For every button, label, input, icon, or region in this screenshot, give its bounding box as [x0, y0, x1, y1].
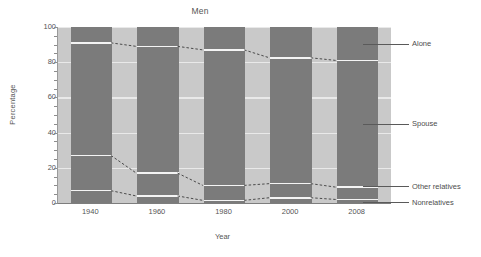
- segment-separator: [204, 185, 245, 187]
- segment-separator: [71, 190, 112, 192]
- legend-label-other-relatives[interactable]: Other relatives: [412, 182, 461, 191]
- y-axis-label: Percentage: [8, 75, 17, 135]
- bar-segment-spouse[interactable]: [270, 58, 311, 184]
- legend-label-nonrelatives[interactable]: Nonrelatives: [412, 198, 454, 207]
- segment-separator: [137, 46, 178, 48]
- plot-inner: [58, 27, 391, 203]
- legend-label-alone[interactable]: Alone: [412, 39, 431, 48]
- bar-segment-spouse[interactable]: [137, 46, 178, 173]
- legend-leader-line-spouse: [363, 124, 409, 125]
- bar-segment-other_relatives[interactable]: [204, 185, 245, 200]
- bar-segment-spouse[interactable]: [71, 43, 112, 156]
- y-tick-label: 100: [30, 23, 56, 31]
- segment-separator: [337, 60, 378, 62]
- legend-label-spouse[interactable]: Spouse: [412, 119, 437, 128]
- segment-separator: [204, 200, 245, 202]
- segment-separator: [270, 57, 311, 59]
- chart-title: Men: [0, 6, 400, 16]
- segment-separator: [71, 155, 112, 157]
- y-tick-label: 60: [30, 93, 56, 101]
- segment-separator: [137, 195, 178, 197]
- y-tick-label: 0: [30, 199, 56, 207]
- bar-segment-other_relatives[interactable]: [137, 173, 178, 196]
- chart-figure: Men Percentage 020406080100 194019601980…: [0, 0, 481, 257]
- bar-segment-nonrelatives[interactable]: [137, 196, 178, 203]
- legend-leader-line-other-relatives: [363, 186, 409, 187]
- x-axis-label: Year: [55, 232, 390, 241]
- segment-separator: [270, 183, 311, 185]
- x-tick-label-1960: 1960: [127, 207, 187, 216]
- legend-leader-line-alone: [363, 44, 409, 45]
- y-axis-ticks: 020406080100: [28, 0, 56, 257]
- bar-segment-alone[interactable]: [137, 27, 178, 46]
- y-tick-label: 40: [30, 129, 56, 137]
- bar-segment-alone[interactable]: [71, 27, 112, 43]
- bar-segment-nonrelatives[interactable]: [270, 198, 311, 203]
- segment-separator: [204, 49, 245, 51]
- x-tick-label-2008: 2008: [327, 207, 387, 216]
- bar-segment-alone[interactable]: [270, 27, 311, 58]
- bar-1980[interactable]: [204, 27, 245, 203]
- bar-segment-other_relatives[interactable]: [270, 184, 311, 198]
- y-tick-label: 80: [30, 58, 56, 66]
- bar-segment-spouse[interactable]: [204, 50, 245, 186]
- segment-separator: [270, 197, 311, 199]
- bar-2000[interactable]: [270, 27, 311, 203]
- bar-segment-nonrelatives[interactable]: [71, 191, 112, 203]
- bar-1940[interactable]: [71, 27, 112, 203]
- segment-separator: [337, 199, 378, 201]
- legend-leader-line-nonrelatives: [363, 202, 409, 203]
- plot-area: [57, 27, 391, 204]
- x-tick-label-1980: 1980: [194, 207, 254, 216]
- segment-separator: [137, 172, 178, 174]
- bar-segment-alone[interactable]: [204, 27, 245, 50]
- x-tick-label-2000: 2000: [260, 207, 320, 216]
- segment-separator: [71, 42, 112, 44]
- bar-2008[interactable]: [337, 27, 378, 203]
- bar-segment-other_relatives[interactable]: [71, 155, 112, 190]
- bar-segment-other_relatives[interactable]: [337, 187, 378, 199]
- y-tick-label: 20: [30, 164, 56, 172]
- bar-1960[interactable]: [137, 27, 178, 203]
- x-tick-label-1940: 1940: [60, 207, 120, 216]
